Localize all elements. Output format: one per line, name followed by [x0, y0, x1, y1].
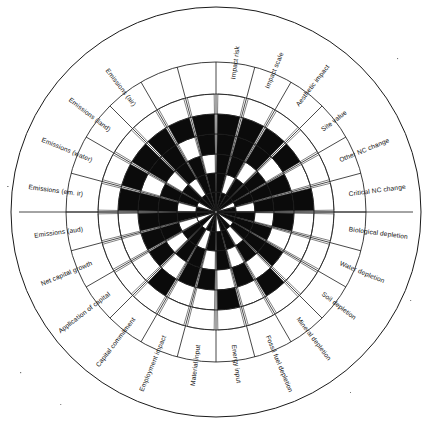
axis-label-water-depletion: Water depletion	[338, 259, 386, 285]
axis-label-fossil-fuel-depletion: Fossil fuel depletion	[264, 334, 295, 394]
axis-label-impact-scale: Impact scale	[263, 51, 285, 90]
data-cell	[292, 213, 314, 236]
axis-label-material-input: Material input	[189, 344, 202, 386]
axis-label-biological-depletion: Biological depletion	[348, 225, 408, 241]
data-cell	[217, 114, 240, 136]
scan-speck	[397, 58, 398, 59]
axis-label-net-capital-growth: Net capital growth	[40, 259, 94, 288]
data-cell	[192, 114, 215, 136]
scan-speck	[7, 186, 9, 187]
radial-assessment-chart: Impact riskImpact scaleAesthetic impactS…	[0, 0, 432, 421]
axis-label-emissions-land: Emissions (land)	[67, 96, 112, 133]
scan-speck	[350, 392, 351, 393]
axis-label-critical-nc-change: Critical NC change	[348, 183, 406, 198]
data-cell	[292, 188, 314, 211]
axis-label-mineral-depletion: Mineral depletion	[295, 316, 333, 363]
radial-chart-svg: Impact riskImpact scaleAesthetic impactS…	[0, 0, 432, 421]
axis-label-emissions-aud: Emissions (aud)	[34, 225, 84, 239]
scan-speck	[410, 300, 411, 301]
axis-label-application-of-capital: Application of capital	[57, 290, 112, 335]
axis-label-aesthetic-impact: Aesthetic impact	[294, 63, 331, 108]
axis-label-soil-depletion: Soil depletion	[320, 290, 358, 322]
axis-label-energy-input: Energy input	[230, 344, 243, 383]
axis-label-impact-risk: Impact risk	[229, 45, 241, 80]
axis-label-site-value: Site value	[320, 109, 348, 133]
data-cell	[118, 188, 140, 211]
axis-label-emissions-water: Emissions (water)	[40, 136, 94, 164]
data-cell	[192, 288, 215, 310]
scan-speck	[20, 372, 21, 373]
data-cell	[217, 288, 240, 310]
axis-label-other-nc-change: Other NC change	[338, 136, 390, 164]
data-cell	[118, 213, 140, 236]
scan-speck	[60, 404, 61, 405]
axis-label-emissions-em-ir: Emissions (em. ir)	[28, 183, 84, 198]
